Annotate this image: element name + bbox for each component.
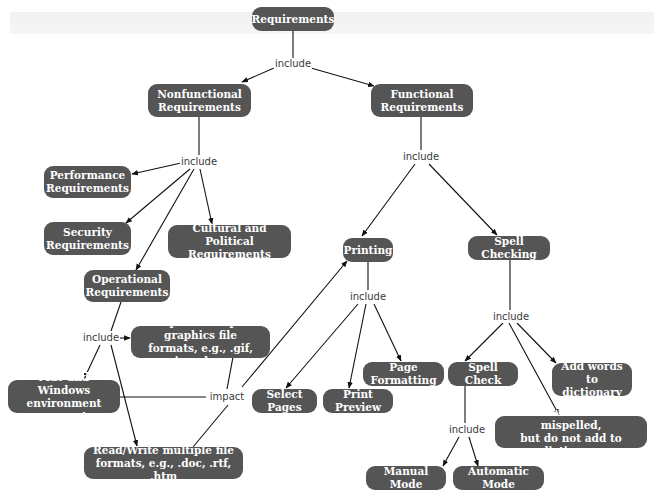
link-label-include-functional: include <box>402 151 440 163</box>
node-automatic-mode[interactable]: Automatic Mode <box>453 466 544 490</box>
link-label-include-root: include <box>274 58 312 70</box>
node-import-graphics-formats[interactable]: Import multiple graphics file formats, e… <box>131 326 270 358</box>
node-add-words-dictionary[interactable]: Add words to dictionary <box>552 363 632 396</box>
link-label-include-spell-check: include <box>448 424 486 436</box>
node-read-write-formats[interactable]: Read/Write multiple file formats, e.g., … <box>84 447 243 479</box>
node-operational-requirements[interactable]: Operational Requirements <box>84 270 170 302</box>
node-spell-checking[interactable]: Spell Checking <box>468 236 550 260</box>
link-label-impact: impact <box>209 391 245 403</box>
link-label-include-printing: include <box>349 291 387 303</box>
node-manual-mode[interactable]: Manual Mode <box>366 466 446 490</box>
node-nonfunctional-requirements[interactable]: Nonfunctional Requirements <box>148 84 251 117</box>
node-requirements[interactable]: Requirements <box>252 7 334 31</box>
node-spell-check[interactable]: Spell Check <box>448 362 518 386</box>
node-performance-requirements[interactable]: Performance Requirements <box>44 166 131 198</box>
link-label-include-spell-checking: include <box>492 311 530 323</box>
node-mac-windows-support[interactable]: Mac and Windows environment support <box>8 380 120 413</box>
link-label-include-nonfunctional: include <box>180 156 218 168</box>
node-page-formatting[interactable]: Page Formatting <box>363 362 444 386</box>
node-mark-words-not-misspelled[interactable]: Mark words as not mispelled, but do not … <box>495 416 647 448</box>
node-functional-requirements[interactable]: Functional Requirements <box>371 84 473 117</box>
node-security-requirements[interactable]: Security Requirements <box>44 222 131 255</box>
link-label-include-operational: include <box>82 332 120 344</box>
node-cultural-political-requirements[interactable]: Cultural and Political Requirements <box>168 225 291 258</box>
node-print-preview[interactable]: Print Preview <box>323 389 393 413</box>
node-select-pages[interactable]: Select Pages <box>252 389 317 413</box>
node-printing[interactable]: Printing <box>343 238 393 262</box>
